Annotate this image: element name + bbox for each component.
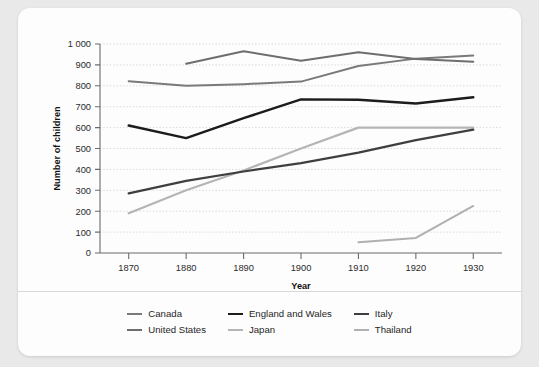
legend-divider [18, 291, 521, 292]
y-tick-label: 200 [75, 207, 91, 217]
chart-svg: 01002003004005006007008009001 0001870188… [18, 8, 521, 291]
x-tick-label: 1890 [233, 263, 254, 273]
legend-swatch-japan [228, 329, 243, 331]
legend-label-canada: Canada [148, 308, 182, 319]
x-tick-label: 1910 [348, 263, 369, 273]
legend-label-italy: Italy [375, 308, 393, 319]
legend-label-thailand: Thailand [375, 324, 412, 335]
legend-item-thailand[interactable]: Thailand [354, 324, 412, 335]
y-tick-label: 600 [75, 123, 91, 133]
x-axis-title: Year [291, 281, 311, 291]
legend-label-japan: Japan [249, 324, 275, 335]
legend-swatch-canada [127, 313, 142, 315]
y-tick-label: 900 [75, 60, 91, 70]
y-tick-label: 400 [75, 165, 91, 175]
x-tick-label: 1930 [463, 263, 484, 273]
x-tick-label: 1900 [291, 263, 312, 273]
x-tick-label: 1880 [176, 263, 197, 273]
y-tick-label: 500 [75, 144, 91, 154]
y-tick-label: 800 [75, 81, 91, 91]
y-tick-label: 100 [75, 228, 91, 238]
x-tick-label: 1870 [118, 263, 139, 273]
y-tick-label: 1 000 [68, 39, 91, 49]
legend-item-italy[interactable]: Italy [354, 308, 412, 319]
line-chart: 01002003004005006007008009001 0001870188… [18, 8, 521, 291]
legend-item-england-and-wales[interactable]: England and Wales [228, 308, 332, 319]
chart-card: 01002003004005006007008009001 0001870188… [18, 8, 521, 356]
legend-swatch-united-states [127, 329, 142, 331]
legend-swatch-england-and-wales [228, 313, 243, 315]
series-line-italy [129, 130, 474, 194]
series-line-thailand [358, 206, 473, 242]
legend-item-united-states[interactable]: United States [127, 324, 206, 335]
chart-legend: CanadaUnited StatesEngland and WalesJapa… [18, 300, 521, 352]
x-tick-label: 1920 [406, 263, 427, 273]
legend-swatch-thailand [354, 329, 369, 331]
series-line-england-and-wales [129, 97, 474, 138]
y-tick-label: 700 [75, 102, 91, 112]
legend-item-canada[interactable]: Canada [127, 308, 206, 319]
y-tick-label: 300 [75, 186, 91, 196]
legend-item-japan[interactable]: Japan [228, 324, 332, 335]
legend-label-england-and-wales: England and Wales [249, 308, 332, 319]
legend-swatch-italy [354, 313, 369, 315]
legend-label-united-states: United States [148, 324, 206, 335]
y-tick-label: 0 [86, 248, 91, 258]
series-line-japan [129, 128, 474, 214]
y-axis-title: Number of children [52, 106, 62, 191]
legend-grid: CanadaUnited StatesEngland and WalesJapa… [127, 308, 411, 335]
